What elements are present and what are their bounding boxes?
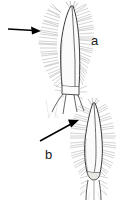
panel-label-a: a bbox=[91, 34, 98, 47]
specimen-a-basal-joint bbox=[62, 86, 79, 95]
panel-label-b: b bbox=[45, 148, 52, 161]
figure-illustration bbox=[0, 0, 121, 201]
figure-panel: a b bbox=[0, 0, 121, 201]
